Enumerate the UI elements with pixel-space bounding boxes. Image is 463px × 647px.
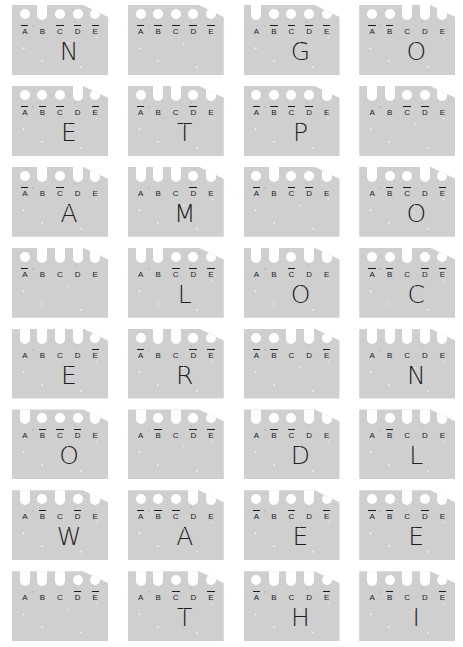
port-c[interactable]: [283, 86, 301, 104]
port-e[interactable]: [202, 329, 220, 347]
port-c[interactable]: [283, 409, 301, 427]
port-b[interactable]: [381, 571, 399, 589]
port-b[interactable]: [381, 329, 399, 347]
punch-card[interactable]: ABCDEL: [128, 248, 224, 318]
port-e[interactable]: [318, 409, 336, 427]
port-c[interactable]: [398, 86, 416, 104]
port-e[interactable]: [318, 86, 336, 104]
port-a[interactable]: [248, 329, 266, 347]
punch-card[interactable]: ABCDE: [128, 409, 224, 479]
port-a[interactable]: [16, 167, 34, 185]
punch-card[interactable]: ABCDEE: [12, 86, 108, 156]
port-b[interactable]: [149, 409, 167, 427]
port-c[interactable]: [167, 409, 185, 427]
port-b[interactable]: [265, 248, 283, 266]
port-d[interactable]: [69, 329, 87, 347]
port-d[interactable]: [185, 248, 203, 266]
port-d[interactable]: [185, 409, 203, 427]
port-c[interactable]: [51, 490, 69, 508]
port-c[interactable]: [51, 248, 69, 266]
port-d[interactable]: [185, 571, 203, 589]
port-e[interactable]: [434, 248, 452, 266]
punch-card[interactable]: ABCDEA: [12, 167, 108, 237]
port-e[interactable]: [202, 5, 220, 23]
port-e[interactable]: [86, 248, 104, 266]
port-b[interactable]: [265, 5, 283, 23]
punch-card[interactable]: ABCDEN: [359, 329, 455, 399]
port-c[interactable]: [283, 490, 301, 508]
port-a[interactable]: [132, 329, 150, 347]
punch-card[interactable]: ABCDET: [128, 571, 224, 641]
port-d[interactable]: [69, 409, 87, 427]
punch-card[interactable]: ABCDEO: [359, 167, 455, 237]
port-d[interactable]: [69, 86, 87, 104]
port-e[interactable]: [202, 167, 220, 185]
port-c[interactable]: [398, 571, 416, 589]
punch-card[interactable]: ABCDE: [128, 5, 224, 75]
port-b[interactable]: [34, 86, 52, 104]
port-e[interactable]: [202, 409, 220, 427]
port-c[interactable]: [167, 5, 185, 23]
port-c[interactable]: [167, 329, 185, 347]
port-a[interactable]: [132, 409, 150, 427]
port-b[interactable]: [149, 86, 167, 104]
port-e[interactable]: [86, 490, 104, 508]
port-c[interactable]: [51, 409, 69, 427]
port-c[interactable]: [398, 5, 416, 23]
port-a[interactable]: [16, 490, 34, 508]
port-c[interactable]: [283, 571, 301, 589]
port-d[interactable]: [300, 571, 318, 589]
port-d[interactable]: [69, 167, 87, 185]
port-d[interactable]: [300, 86, 318, 104]
port-b[interactable]: [381, 409, 399, 427]
port-d[interactable]: [185, 86, 203, 104]
punch-card[interactable]: ABCDEI: [359, 571, 455, 641]
port-a[interactable]: [16, 409, 34, 427]
port-c[interactable]: [51, 86, 69, 104]
port-d[interactable]: [300, 329, 318, 347]
port-e[interactable]: [434, 5, 452, 23]
port-e[interactable]: [434, 409, 452, 427]
port-a[interactable]: [248, 167, 266, 185]
punch-card[interactable]: ABCDE: [359, 86, 455, 156]
port-b[interactable]: [265, 571, 283, 589]
port-b[interactable]: [265, 86, 283, 104]
port-b[interactable]: [34, 490, 52, 508]
port-e[interactable]: [202, 571, 220, 589]
port-d[interactable]: [300, 409, 318, 427]
punch-card[interactable]: ABCDEA: [128, 490, 224, 560]
punch-card[interactable]: ABCDEM: [128, 167, 224, 237]
port-a[interactable]: [248, 571, 266, 589]
port-b[interactable]: [149, 248, 167, 266]
port-d[interactable]: [185, 490, 203, 508]
punch-card[interactable]: ABCDEH: [244, 571, 340, 641]
punch-card[interactable]: ABCDEE: [244, 490, 340, 560]
port-e[interactable]: [202, 248, 220, 266]
port-a[interactable]: [363, 167, 381, 185]
port-c[interactable]: [167, 248, 185, 266]
port-a[interactable]: [16, 5, 34, 23]
punch-card[interactable]: ABCDEL: [359, 409, 455, 479]
port-b[interactable]: [149, 329, 167, 347]
port-a[interactable]: [248, 248, 266, 266]
punch-card[interactable]: ABCDEE: [12, 329, 108, 399]
port-c[interactable]: [167, 167, 185, 185]
port-b[interactable]: [34, 329, 52, 347]
port-e[interactable]: [434, 490, 452, 508]
punch-card[interactable]: ABCDEO: [359, 5, 455, 75]
port-b[interactable]: [265, 409, 283, 427]
port-e[interactable]: [318, 490, 336, 508]
port-d[interactable]: [416, 409, 434, 427]
port-a[interactable]: [248, 86, 266, 104]
punch-card[interactable]: ABCDE: [244, 167, 340, 237]
port-d[interactable]: [69, 248, 87, 266]
port-c[interactable]: [283, 248, 301, 266]
punch-card[interactable]: ABCDEE: [359, 490, 455, 560]
port-b[interactable]: [265, 167, 283, 185]
port-b[interactable]: [34, 167, 52, 185]
port-a[interactable]: [363, 490, 381, 508]
port-e[interactable]: [86, 167, 104, 185]
port-c[interactable]: [167, 490, 185, 508]
punch-card[interactable]: ABCDEW: [12, 490, 108, 560]
port-c[interactable]: [398, 490, 416, 508]
